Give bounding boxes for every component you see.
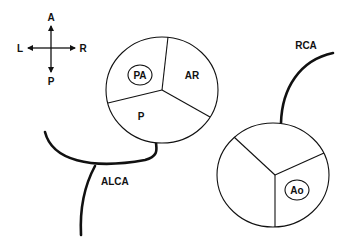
cusp-label-ar: AR <box>185 70 200 81</box>
alca-vessel: ALCA <box>45 132 156 235</box>
compass-label-anterior: A <box>47 12 54 23</box>
pulmonary-valve: PA AR P <box>106 37 218 143</box>
cusp-label-pa: PA <box>133 70 146 81</box>
orientation-compass: A P L R <box>17 12 87 87</box>
valve-diagram: A P L R ALCA PA AR P RCA Ao <box>0 0 347 242</box>
cusp-label-p: P <box>138 111 145 122</box>
rca-label: RCA <box>295 40 317 51</box>
cusp-label-ao: Ao <box>290 185 303 196</box>
compass-label-right: R <box>79 43 87 54</box>
compass-label-left: L <box>17 43 23 54</box>
compass-label-posterior: P <box>48 76 55 87</box>
aortic-valve: Ao <box>217 123 329 227</box>
rca-vessel: RCA <box>281 40 333 123</box>
alca-label: ALCA <box>101 176 129 187</box>
